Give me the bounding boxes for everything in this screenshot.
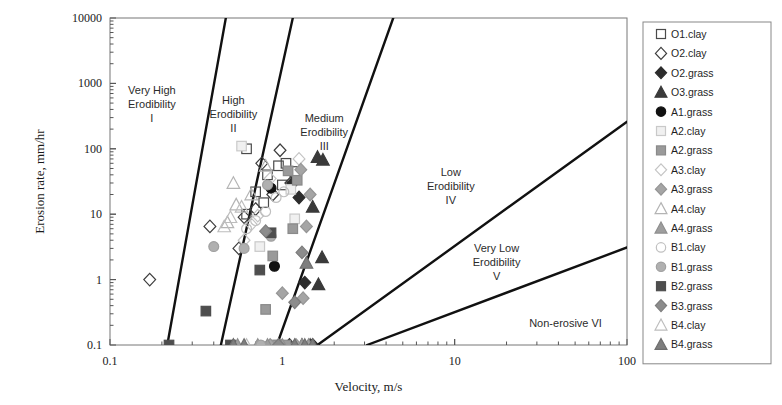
- legend-label: B1.grass: [671, 261, 712, 273]
- datapoint-A2.grass: [261, 305, 271, 315]
- legend-item-A2.grass[interactable]: A2.grass: [657, 144, 713, 156]
- datapoint-B2.grass: [201, 306, 211, 316]
- y-tick-label: 100: [84, 142, 102, 156]
- datapoint-B1.grass: [209, 242, 219, 252]
- chart-canvas: 0.11101000.1110100100010000Velocity, m/s…: [0, 0, 782, 405]
- legend-label: A4.clay: [671, 203, 706, 215]
- legend-label: A3.clay: [671, 164, 706, 176]
- region-5-line: Erodibility: [473, 256, 521, 268]
- y-tick-label: 1000: [78, 76, 102, 90]
- legend-label: O1.clay: [671, 28, 707, 40]
- plot-frame: [110, 18, 627, 345]
- region-5-line: Very Low: [474, 242, 519, 254]
- y-tick-label: 10: [90, 207, 102, 221]
- region-4-line: Low: [441, 166, 461, 178]
- datapoint-A1.grass: [270, 261, 280, 271]
- datapoint-A2.clay: [237, 141, 247, 151]
- datapoint-B2.grass: [164, 340, 174, 350]
- legend-label: O2.clay: [671, 47, 707, 59]
- legend-marker-square-icon: [657, 282, 666, 291]
- x-tick-label: 10: [449, 354, 461, 368]
- datapoint-A2.grass: [283, 166, 293, 176]
- region-3-line: Medium: [305, 112, 344, 124]
- region-2-line: High: [222, 94, 245, 106]
- datapoint-B2.grass: [255, 265, 265, 275]
- legend-marker-square-icon: [657, 127, 666, 136]
- legend-label: A3.grass: [671, 183, 712, 195]
- region-3-line: Erodibility: [300, 126, 348, 138]
- datapoint-A2.grass: [292, 176, 302, 186]
- datapoint-B1.grass: [263, 180, 273, 190]
- y-axis-title: Erosion rate, mm/hr: [32, 129, 47, 234]
- legend-marker-circle-icon: [656, 107, 665, 116]
- region-6-line: Non-erosive VI: [529, 317, 602, 329]
- x-tick-label: 100: [618, 354, 636, 368]
- region-1-line: Very High: [128, 84, 176, 96]
- legend-item-A2.clay[interactable]: A2.clay: [657, 125, 707, 137]
- legend-marker-square-icon: [657, 146, 666, 155]
- x-tick-label: 1: [279, 354, 285, 368]
- region-2-line: II: [230, 122, 236, 134]
- erosion-chart-figure: 0.11101000.1110100100010000Velocity, m/s…: [0, 0, 782, 405]
- datapoint-A2.clay: [255, 242, 265, 252]
- y-tick-label: 10000: [72, 11, 102, 25]
- datapoint-B1.grass: [239, 243, 249, 253]
- region-4-line: IV: [446, 194, 457, 206]
- region-4-line: Erodibility: [427, 180, 475, 192]
- region-6: Non-erosive VI: [529, 317, 602, 329]
- legend-label: A4.grass: [671, 222, 712, 234]
- region-5-line: V: [493, 270, 501, 282]
- legend-label: A2.grass: [671, 144, 712, 156]
- legend-label: B1.clay: [671, 241, 706, 253]
- legend-label: A1.grass: [671, 106, 712, 118]
- y-tick-label: 0.1: [87, 338, 102, 352]
- datapoint-A2.grass: [268, 251, 278, 261]
- region-1-line: Erodibility: [128, 98, 176, 110]
- legend-item-B2.grass[interactable]: B2.grass: [657, 280, 713, 292]
- x-tick-label: 0.1: [103, 354, 118, 368]
- legend-label: B4.grass: [671, 338, 712, 350]
- legend-marker-circle-icon: [656, 262, 665, 271]
- legend-label: O2.grass: [671, 67, 714, 79]
- region-1-line: I: [150, 112, 153, 124]
- legend-label: A2.clay: [671, 125, 706, 137]
- legend-label: O3.grass: [671, 86, 714, 98]
- legend-label: B4.clay: [671, 319, 706, 331]
- y-tick-label: 1: [96, 273, 102, 287]
- datapoint-A2.clay: [290, 214, 300, 224]
- datapoint-B1.grass: [256, 340, 266, 350]
- legend-label: B3.grass: [671, 300, 712, 312]
- region-2-line: Erodibility: [210, 108, 258, 120]
- datapoint-A2.grass: [288, 224, 298, 234]
- legend-label: B2.grass: [671, 280, 712, 292]
- x-axis-title: Velocity, m/s: [335, 379, 403, 394]
- region-3-line: III: [320, 140, 329, 152]
